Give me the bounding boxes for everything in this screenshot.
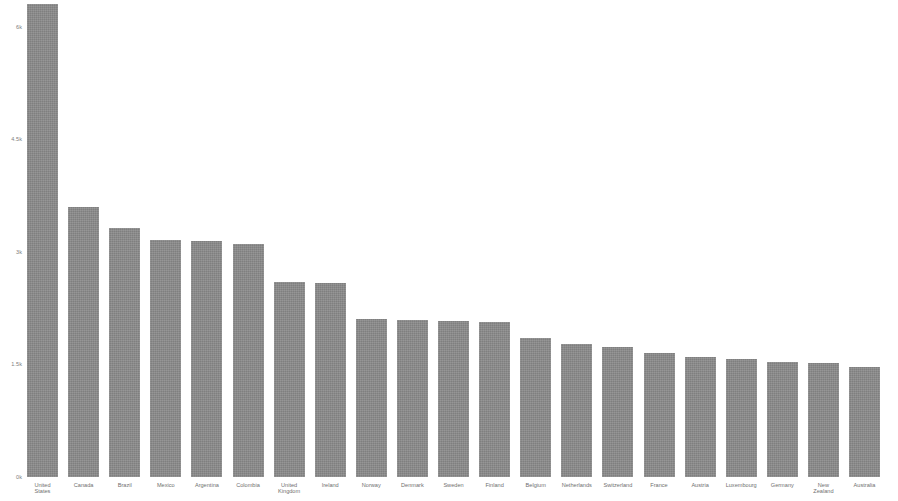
x-axis-tick-label: Germany <box>759 482 805 488</box>
bar[interactable] <box>808 363 839 477</box>
x-axis-tick-label: Ireland <box>307 482 353 488</box>
bar[interactable] <box>233 244 264 477</box>
y-axis-tick-label: 6k <box>0 24 22 30</box>
bar[interactable] <box>767 362 798 477</box>
plot-area: 0k1.5k3k4.5k6k <box>0 0 898 477</box>
bar[interactable] <box>644 353 675 477</box>
x-axis-tick-label: France <box>636 482 682 488</box>
x-axis-tick-label: Norway <box>348 482 394 488</box>
x-axis-tick-label: Brazil <box>102 482 148 488</box>
x-axis-tick-label: Denmark <box>389 482 435 488</box>
bar[interactable] <box>27 4 58 477</box>
bar[interactable] <box>397 320 428 477</box>
bar[interactable] <box>520 338 551 477</box>
x-axis-tick-label: Switzerland <box>595 482 641 488</box>
bar[interactable] <box>356 319 387 477</box>
x-axis-tick-label: Belgium <box>513 482 559 488</box>
bar[interactable] <box>274 282 305 477</box>
bar[interactable] <box>68 207 99 477</box>
bar[interactable] <box>479 322 510 477</box>
bar[interactable] <box>438 321 469 477</box>
x-axis-tick-label: Argentina <box>184 482 230 488</box>
x-axis-tick-label: UnitedKingdom <box>266 482 312 495</box>
y-axis-tick-label: 4.5k <box>0 136 22 142</box>
bar[interactable] <box>726 359 757 477</box>
x-axis-tick-label: NewZealand <box>800 482 846 495</box>
x-axis-tick-label: Netherlands <box>554 482 600 488</box>
x-axis: UnitedStatesCanadaBrazilMexicoArgentinaC… <box>0 477 898 501</box>
bar[interactable] <box>150 240 181 477</box>
x-axis-tick-label: Finland <box>472 482 518 488</box>
bar[interactable] <box>602 347 633 477</box>
bar[interactable] <box>315 283 346 477</box>
bar-chart: 0k1.5k3k4.5k6k UnitedStatesCanadaBrazilM… <box>0 0 898 501</box>
bar[interactable] <box>191 241 222 477</box>
bar[interactable] <box>109 228 140 477</box>
x-axis-tick-label: Mexico <box>143 482 189 488</box>
bar[interactable] <box>849 367 880 477</box>
x-axis-tick-label: Sweden <box>431 482 477 488</box>
y-axis-tick-label: 3k <box>0 249 22 255</box>
x-axis-tick-label: Canada <box>61 482 107 488</box>
x-axis-tick-label: Austria <box>677 482 723 488</box>
x-axis-tick-label: Colombia <box>225 482 271 488</box>
x-axis-tick-label: Australia <box>842 482 888 488</box>
bar[interactable] <box>561 344 592 477</box>
y-axis-tick-label: 1.5k <box>0 361 22 367</box>
x-axis-tick-label: Luxembourg <box>718 482 764 488</box>
bar[interactable] <box>685 357 716 477</box>
x-axis-tick-label: UnitedStates <box>20 482 66 495</box>
